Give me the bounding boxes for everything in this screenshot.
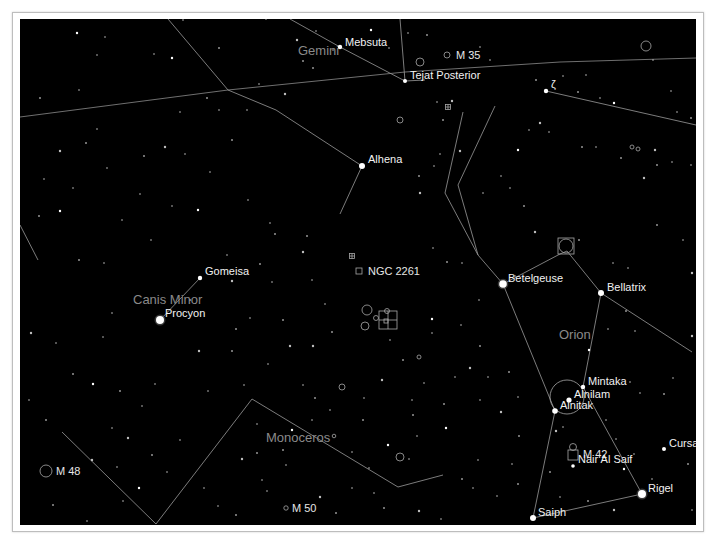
faint-star[interactable]: [691, 272, 693, 274]
deep-sky-object[interactable]: NGC 2261: [356, 265, 420, 277]
faint-star[interactable]: [329, 409, 331, 411]
faint-star[interactable]: [577, 91, 579, 93]
faint-star[interactable]: [59, 150, 61, 152]
faint-star[interactable]: [331, 331, 333, 333]
faint-star[interactable]: [218, 109, 220, 111]
faint-star[interactable]: [408, 458, 410, 460]
faint-star[interactable]: [312, 345, 314, 347]
faint-star[interactable]: [402, 359, 404, 361]
faint-star[interactable]: [259, 263, 261, 265]
bright-star[interactable]: Betelgeuse: [498, 272, 563, 289]
deep-sky-object-icon[interactable]: [641, 41, 651, 51]
faint-star[interactable]: [479, 345, 481, 347]
faint-star[interactable]: [139, 193, 141, 195]
faint-star[interactable]: [418, 510, 420, 512]
faint-star[interactable]: [306, 235, 308, 237]
faint-star[interactable]: [179, 111, 181, 113]
deep-sky-object-icon[interactable]: [396, 453, 404, 461]
faint-star[interactable]: [682, 239, 684, 241]
faint-star[interactable]: [256, 423, 258, 425]
faint-star[interactable]: [535, 79, 537, 81]
faint-star[interactable]: [460, 324, 462, 326]
faint-star[interactable]: [411, 399, 413, 401]
faint-star[interactable]: [55, 342, 57, 344]
faint-star[interactable]: [104, 36, 106, 38]
faint-star[interactable]: [243, 384, 245, 386]
faint-star[interactable]: [351, 451, 353, 453]
faint-star[interactable]: [312, 67, 314, 69]
faint-star[interactable]: [59, 210, 61, 212]
faint-star[interactable]: [246, 109, 248, 111]
faint-star[interactable]: [528, 129, 530, 131]
faint-star[interactable]: [282, 449, 284, 451]
faint-star[interactable]: [314, 397, 316, 399]
faint-star[interactable]: [86, 520, 88, 522]
faint-star[interactable]: [442, 119, 444, 121]
faint-star[interactable]: [670, 90, 672, 92]
faint-star[interactable]: [387, 444, 389, 446]
faint-star[interactable]: [226, 254, 228, 256]
deep-sky-object-icon[interactable]: [332, 434, 336, 438]
faint-star[interactable]: [218, 47, 220, 49]
faint-star[interactable]: [656, 164, 658, 166]
faint-star[interactable]: [585, 74, 587, 76]
faint-star[interactable]: [431, 318, 433, 320]
faint-star[interactable]: [489, 59, 491, 61]
faint-star[interactable]: [231, 139, 233, 141]
faint-star[interactable]: [407, 32, 409, 34]
faint-star[interactable]: [691, 335, 693, 337]
faint-star[interactable]: [274, 233, 276, 235]
faint-star[interactable]: [30, 332, 32, 334]
faint-star[interactable]: [231, 350, 233, 352]
bright-star[interactable]: Procyon: [155, 307, 206, 326]
faint-star[interactable]: [548, 131, 550, 133]
bright-star[interactable]: Tejat Posterior: [403, 69, 481, 83]
faint-star[interactable]: [479, 46, 481, 48]
faint-star[interactable]: [111, 312, 113, 314]
faint-star[interactable]: [487, 376, 489, 378]
faint-star[interactable]: [231, 280, 233, 282]
bright-star[interactable]: Alhena: [359, 153, 403, 169]
faint-star[interactable]: [249, 317, 251, 319]
bright-star[interactable]: Cursa: [662, 437, 696, 451]
faint-star[interactable]: [217, 505, 219, 507]
faint-star[interactable]: [625, 310, 627, 312]
faint-star[interactable]: [324, 303, 326, 305]
deep-sky-object-icon[interactable]: [350, 254, 355, 259]
faint-star[interactable]: [439, 153, 441, 155]
faint-star[interactable]: [122, 500, 124, 502]
faint-star[interactable]: [690, 164, 692, 166]
faint-star[interactable]: [206, 97, 208, 99]
faint-star[interactable]: [289, 345, 291, 347]
faint-star[interactable]: [362, 419, 364, 421]
faint-star[interactable]: [72, 373, 74, 375]
deep-sky-object[interactable]: M 50: [284, 502, 317, 514]
faint-star[interactable]: [164, 146, 166, 148]
faint-star[interactable]: [96, 54, 98, 56]
faint-star[interactable]: [72, 187, 74, 189]
bright-star[interactable]: Gomeisa: [198, 265, 250, 280]
deep-sky-object-icon[interactable]: [417, 355, 421, 359]
faint-star[interactable]: [184, 153, 186, 155]
faint-star[interactable]: [461, 262, 463, 264]
faint-star[interactable]: [691, 509, 693, 511]
faint-star[interactable]: [143, 155, 145, 157]
faint-star[interactable]: [373, 492, 375, 494]
faint-star[interactable]: [639, 392, 641, 394]
faint-star[interactable]: [436, 101, 438, 103]
faint-star[interactable]: [285, 464, 287, 466]
faint-star[interactable]: [426, 34, 428, 36]
faint-star[interactable]: [335, 512, 337, 514]
faint-star[interactable]: [119, 390, 121, 392]
faint-star[interactable]: [92, 383, 94, 385]
faint-star[interactable]: [595, 146, 597, 148]
faint-star[interactable]: [351, 487, 353, 489]
faint-star[interactable]: [613, 102, 615, 104]
deep-sky-object-icon[interactable]: [636, 147, 640, 151]
faint-star[interactable]: [482, 192, 484, 194]
faint-star[interactable]: [562, 75, 564, 77]
faint-star[interactable]: [266, 490, 268, 492]
faint-star[interactable]: [269, 222, 271, 224]
faint-star[interactable]: [652, 59, 654, 61]
faint-star[interactable]: [247, 199, 249, 201]
